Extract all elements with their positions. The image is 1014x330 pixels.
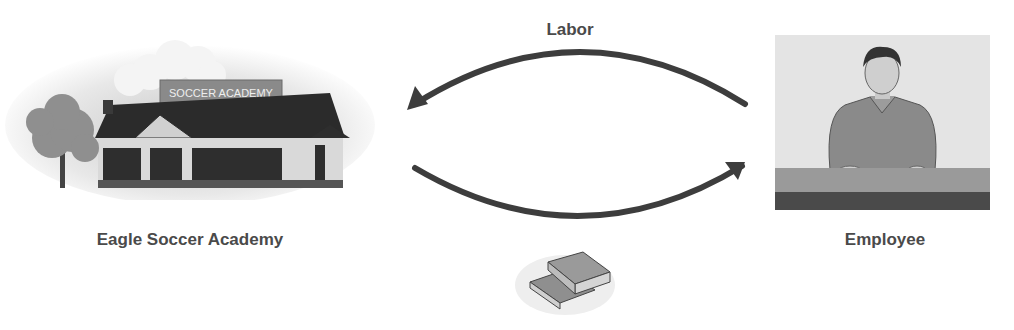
flow-arrows (380, 0, 780, 240)
employee-illustration (775, 35, 990, 210)
building-icon: SOCCER ACADEMY (0, 30, 380, 200)
employee-icon (775, 35, 990, 210)
wage-arrow (415, 162, 745, 216)
academy-building: SOCCER ACADEMY (0, 30, 380, 200)
money-icon (510, 240, 620, 320)
academy-label: Eagle Soccer Academy (60, 230, 320, 250)
employee-label: Employee (820, 230, 950, 250)
labor-arrow (407, 52, 745, 110)
